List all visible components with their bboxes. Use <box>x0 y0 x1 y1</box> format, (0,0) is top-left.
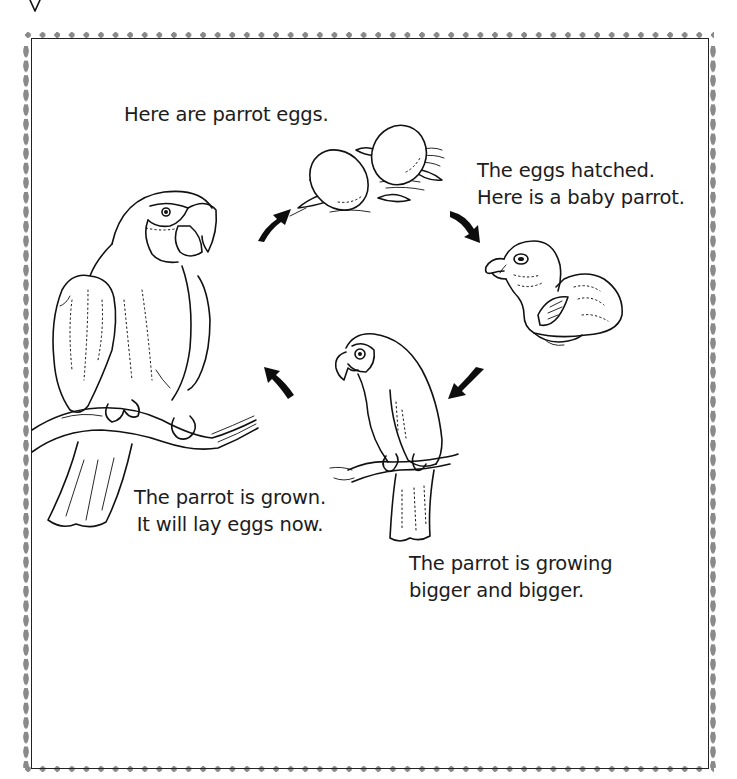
caption-hatched-line1: The eggs hatched. <box>477 157 685 184</box>
frame-dots-right <box>709 46 717 768</box>
caption-growing-line2: bigger and bigger. <box>409 577 612 604</box>
young-parrot-illustration <box>330 330 460 545</box>
caption-growing: The parrot is growing bigger and bigger. <box>409 550 612 604</box>
frame-dots-left <box>22 46 30 768</box>
arrow-adult-to-eggs-icon <box>255 205 300 245</box>
caption-hatched-line2: Here is a baby parrot. <box>477 184 685 211</box>
arrow-baby-to-juvenile-icon <box>446 365 486 405</box>
adult-parrot-illustration <box>32 180 262 550</box>
baby-parrot-illustration <box>478 235 638 350</box>
arrow-eggs-to-baby-icon <box>448 205 488 245</box>
pencil-tip-icon <box>28 0 42 14</box>
parrot-eggs-illustration <box>290 120 450 220</box>
caption-hatched: The eggs hatched. Here is a baby parrot. <box>477 157 685 211</box>
caption-growing-line1: The parrot is growing <box>409 550 612 577</box>
arrow-juvenile-to-adult-icon <box>262 365 302 405</box>
